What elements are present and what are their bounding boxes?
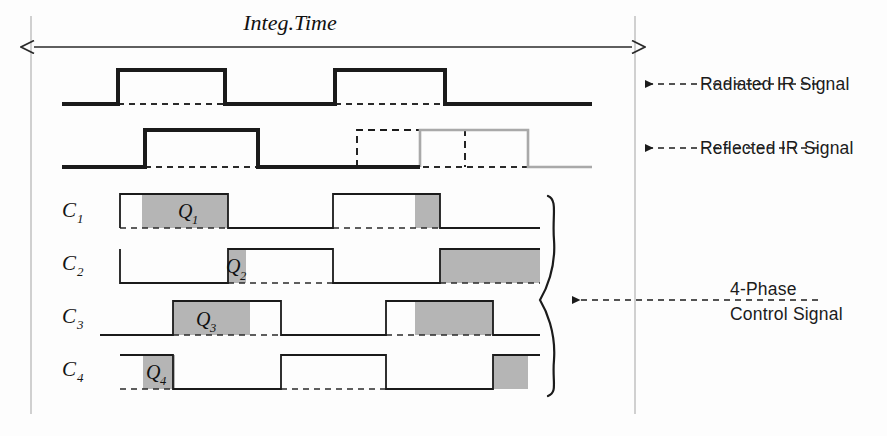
control-signal-c4 xyxy=(120,355,540,389)
c2-charge-subscript: 2 xyxy=(240,269,246,283)
control-signal-c2 xyxy=(120,249,540,283)
figure-canvas: Integ.Time Radiated IR Signal Reflected … xyxy=(0,0,887,436)
c3-charge-region-2 xyxy=(415,301,493,335)
integ-time-label: Integ.Time xyxy=(242,10,337,35)
control-signal-brace xyxy=(540,196,554,396)
c4-charge-region-2 xyxy=(493,355,528,389)
control-signal-c3 xyxy=(100,301,540,335)
c4-trace xyxy=(120,355,540,389)
c2-row-label: C xyxy=(62,251,77,275)
c4-charge-label: Q xyxy=(146,361,161,383)
c1-row-label-subscript: 1 xyxy=(77,211,84,226)
reflected-trace xyxy=(62,130,420,167)
waveform-radiated-ir-signal xyxy=(62,70,592,104)
radiated-trace xyxy=(62,70,592,104)
c2-charge-label: Q xyxy=(226,255,241,277)
reflected-gray-pulse xyxy=(420,130,592,167)
c4-charge-subscript: 4 xyxy=(160,374,166,388)
c1-row-label: C xyxy=(62,198,77,222)
c1-charge-region-2 xyxy=(415,194,440,228)
c3-row-label-subscript: 3 xyxy=(76,317,84,332)
control-signal-label-line1: 4-Phase xyxy=(730,279,797,299)
reflected-ir-signal-label: Reflected IR Signal xyxy=(700,138,854,158)
annotation-arrows xyxy=(572,84,818,300)
brace-path xyxy=(540,196,554,396)
c3-row-label: C xyxy=(62,304,77,328)
c3-charge-label: Q xyxy=(196,308,211,330)
c1-charge-subscript: 1 xyxy=(192,213,198,227)
radiated-ir-signal-label: Radiated IR Signal xyxy=(700,74,850,94)
timing-diagram-svg: Integ.Time Radiated IR Signal Reflected … xyxy=(0,0,887,436)
control-signal-label-line2: Control Signal xyxy=(730,304,843,324)
waveform-reflected-ir-signal xyxy=(62,130,592,167)
c2-row-label-subscript: 2 xyxy=(77,264,84,279)
c4-row-label: C xyxy=(62,357,77,381)
c1-charge-label: Q xyxy=(178,200,193,222)
c3-charge-subscript: 3 xyxy=(209,321,216,335)
reflected-dashed-pulse xyxy=(357,130,465,167)
c4-row-label-subscript: 4 xyxy=(77,370,84,385)
c2-charge-region-2 xyxy=(440,249,540,283)
